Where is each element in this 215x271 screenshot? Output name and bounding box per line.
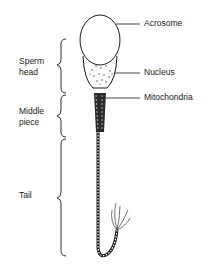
nucleus: [89, 65, 112, 84]
region-braces: [57, 39, 66, 256]
label-nucleus: Nucleus: [144, 67, 175, 78]
sperm-diagram: [0, 0, 215, 271]
label-middle-piece: Middle piece: [19, 106, 44, 128]
tail: [98, 132, 130, 256]
label-sperm-head: Sperm head: [19, 56, 44, 78]
label-mitochondria: Mitochondria: [144, 92, 193, 103]
label-tail: Tail: [19, 190, 32, 201]
middle-piece: [94, 93, 106, 132]
label-acrosome: Acrosome: [144, 18, 182, 29]
sperm-head: [80, 15, 120, 88]
